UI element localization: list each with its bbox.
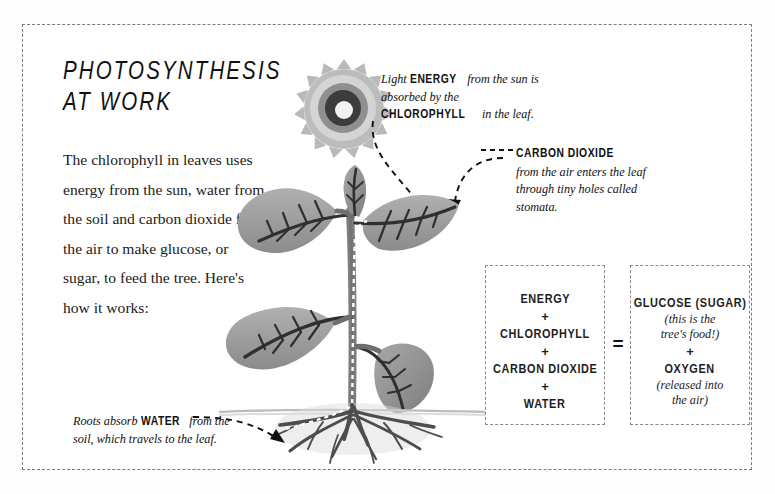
reactant-plus-1: + <box>541 308 549 325</box>
roots-caps-water: WATER <box>141 413 180 431</box>
reactant-energy: ENERGY <box>520 290 570 308</box>
product-oxygen-note: (released into the air) <box>657 378 724 409</box>
leaf-top-right <box>355 195 459 251</box>
light-text-part1: Light <box>381 72 410 86</box>
annotation-light-energy: Light ENERGY from the sun is absorbed by… <box>381 71 556 124</box>
annotation-carbon-dioxide: CARBON DIOXIDE from the air enters the l… <box>516 145 656 216</box>
roots-text-part1: Roots absorb <box>73 414 141 428</box>
roots-arrow <box>193 411 303 451</box>
poster-frame: PHOTOSYNTHESIS AT WORK The chlorophyll i… <box>22 24 752 470</box>
reactant-water: WATER <box>524 395 566 413</box>
leaf-top-left <box>238 188 352 253</box>
co2-heading: CARBON DIOXIDE <box>516 145 636 163</box>
product-glucose: GLUCOSE (SUGAR) <box>634 294 747 312</box>
product-plus: + <box>686 343 694 360</box>
reactant-plus-2: + <box>541 343 549 360</box>
equals-sign: = <box>609 333 627 355</box>
page-title: PHOTOSYNTHESIS AT WORK <box>63 55 260 117</box>
equation-reactants-box: ENERGY + CHLOROPHYLL + CARBON DIOXIDE + … <box>485 265 605 425</box>
leaf-lower-right <box>353 343 434 413</box>
reactant-plus-3: + <box>541 378 549 395</box>
co2-body: from the air enters the leaf through tin… <box>516 165 646 214</box>
reactant-chlorophyll: CHLOROPHYLL <box>500 325 590 343</box>
reactant-carbon-dioxide: CARBON DIOXIDE <box>493 360 597 378</box>
equation-products-box: GLUCOSE (SUGAR) (this is the tree's food… <box>630 265 750 425</box>
light-caps-energy: ENERGY <box>410 71 457 89</box>
light-text-part3: in the leaf. <box>479 107 534 121</box>
product-oxygen: OXYGEN <box>665 360 715 378</box>
product-glucose-note: (this is the tree's food!) <box>661 312 720 343</box>
leaf-mid-left <box>226 307 353 370</box>
